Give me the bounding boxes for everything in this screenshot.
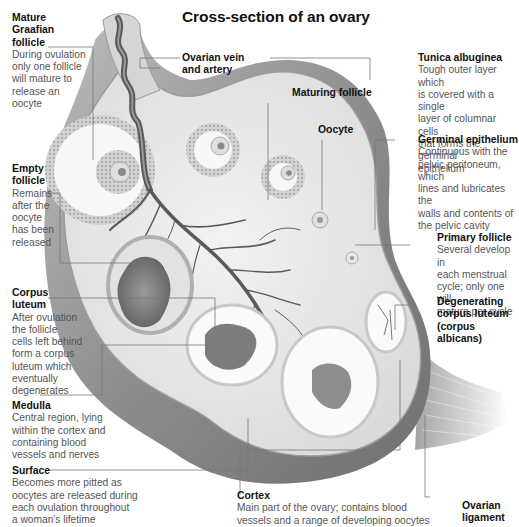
label-ovarian-ligament: Ovarian ligament [462, 500, 517, 525]
label-desc: Remains [12, 188, 62, 200]
label-degenerating-corpus-luteum: Degenerating corpus luteum (corpus albic… [437, 296, 519, 345]
label-desc: lines and lubricates the [418, 183, 518, 208]
label-desc: Several develop in [437, 244, 519, 269]
label-title: and artery [182, 64, 262, 76]
label-germinal-epithelium: Germinal epithelium Continuous with the … [418, 134, 518, 232]
label-title: (corpus albicans) [437, 321, 519, 346]
label-desc: each menstrual [437, 269, 519, 281]
corpus-albicans-shape [366, 292, 406, 352]
label-title: Ovarian vein [182, 52, 262, 64]
label-desc: During ovulation [12, 49, 87, 61]
label-medulla: Medulla Central region, lying within the… [12, 400, 122, 461]
label-maturing-follicle: Maturing follicle [292, 87, 392, 99]
label-title: Surface [12, 465, 162, 477]
label-desc: containing blood [12, 437, 122, 449]
label-title: Germinal epithelium [418, 134, 518, 146]
label-title: Cortex [237, 490, 447, 502]
page-title: Cross-section of an ovary [182, 8, 370, 26]
primary-follicle-shape [346, 252, 358, 264]
label-title: Corpus [12, 287, 87, 299]
label-desc: will mature to [12, 73, 87, 85]
label-title: ligament [462, 512, 517, 524]
label-desc: after the [12, 200, 62, 212]
label-title: follicle [12, 37, 87, 49]
label-title: Primary follicle [437, 232, 519, 244]
label-cortex: Cortex Main part of the ovary; contains … [237, 490, 447, 527]
label-desc: oocyte [12, 98, 87, 110]
label-title: Medulla [12, 400, 122, 412]
oocyte-shape [312, 212, 328, 228]
label-surface: Surface Becomes more pitted as oocytes a… [12, 465, 162, 526]
label-desc: eventually [12, 373, 87, 385]
label-desc: form a corpus [12, 348, 87, 360]
label-oocyte: Oocyte [318, 124, 368, 136]
label-desc: oocyte [12, 212, 62, 224]
label-desc: release an [12, 86, 87, 98]
label-empty-follicle: Empty follicle Remains after the oocyte … [12, 163, 62, 249]
label-title: Degenerating [437, 296, 519, 308]
corpus-luteum-shape [108, 237, 192, 333]
label-title: corpus luteum [437, 308, 519, 320]
label-desc: After ovulation [12, 312, 87, 324]
label-desc: pelvic peritoneum, which [418, 159, 518, 184]
label-title: Empty [12, 163, 62, 175]
label-title: Mature [12, 12, 87, 24]
label-mature-graafian-follicle: Mature Graafian follicle During ovulatio… [12, 12, 87, 110]
label-desc: the pelvic cavity [418, 220, 518, 232]
label-desc: the follicle [12, 324, 87, 336]
label-desc: Central region, lying [12, 412, 122, 424]
maturing-follicle-shape [186, 123, 240, 177]
label-title: Maturing follicle [292, 87, 392, 99]
label-desc: is covered with a single [418, 89, 518, 114]
label-desc: degenerates [12, 385, 87, 397]
label-desc: has been [12, 224, 62, 236]
label-desc: luteum which [12, 361, 87, 373]
label-title: Tunica albuginea [418, 52, 518, 64]
label-desc: Main part of the ovary; contains blood [237, 502, 447, 514]
label-desc: walls and contents of [418, 208, 518, 220]
label-title: Graafian [12, 24, 87, 36]
label-desc: vessels and a range of developing oocyte… [237, 515, 447, 527]
label-desc: a woman's lifetime [12, 514, 162, 526]
label-desc: Continuous with the [418, 146, 518, 158]
label-title: Ovarian [462, 500, 517, 512]
label-desc: vessels and nerves [12, 449, 122, 461]
label-desc: released [12, 237, 62, 249]
label-desc: Tough outer layer which [418, 64, 518, 89]
label-desc: cells left behind [12, 336, 87, 348]
label-desc: oocytes are released during [12, 490, 162, 502]
label-title: luteum [12, 299, 87, 311]
label-desc: each ovulation throughout [12, 502, 162, 514]
label-title: Oocyte [318, 124, 368, 136]
label-desc: within the cortex and [12, 425, 122, 437]
label-corpus-luteum: Corpus luteum After ovulation the follic… [12, 287, 87, 398]
label-title: follicle [12, 175, 62, 187]
label-desc: only one follicle [12, 61, 87, 73]
label-ovarian-vein-artery: Ovarian vein and artery [182, 52, 262, 77]
label-desc: Becomes more pitted as [12, 477, 162, 489]
large-corpus-luteum-shape [282, 327, 378, 437]
